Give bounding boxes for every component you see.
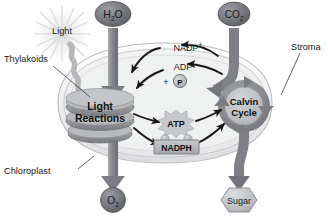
h2o-molecule: H2O — [95, 2, 131, 27]
plus-sign: + — [163, 77, 168, 87]
photosynthesis-diagram-page: Light Reactions Calvin Cycle — [0, 0, 328, 218]
h2o-tail: O — [115, 8, 123, 20]
phosphate-group: + P — [163, 74, 186, 87]
o2-molecule: O2 — [101, 188, 126, 213]
nadp-plus-label-group: NADP+ — [174, 41, 203, 53]
co2-base: CO — [225, 9, 240, 20]
calvin-cycle-label-line2: Cycle — [231, 107, 256, 118]
co2-molecule: CO2 — [218, 2, 250, 26]
sugar-molecule: Sugar — [221, 188, 257, 212]
light-label: Light — [52, 26, 72, 36]
o2-base: O — [107, 194, 115, 206]
co2-subscript: 2 — [240, 15, 244, 22]
diagram-canvas: Light Reactions Calvin Cycle — [0, 0, 328, 218]
phosphate-label: P — [177, 78, 183, 87]
atp-label: ATP — [167, 119, 184, 129]
thylakoids-label: Thylakoids — [4, 54, 48, 64]
stroma-label: Stroma — [291, 42, 322, 52]
chloroplast-label: Chloroplast — [4, 166, 51, 176]
nadp-base: NADP — [174, 43, 199, 53]
h2o-base: H — [103, 8, 111, 20]
light-reactions-label-line1: Light — [87, 100, 113, 112]
sugar-label: Sugar — [227, 196, 251, 206]
light-reactions-process[interactable]: Light Reactions — [66, 89, 134, 144]
calvin-cycle-label-line1: Calvin — [230, 96, 259, 107]
chloroplast-leader — [78, 156, 94, 169]
nadph-label: NADPH — [161, 143, 192, 153]
svg-text:NADP+: NADP+ — [174, 41, 203, 53]
o2-subscript: 2 — [115, 201, 119, 208]
stroma-leader — [281, 53, 300, 95]
adp-label: ADP — [174, 62, 193, 72]
light-reactions-label-line2: Reactions — [75, 112, 125, 124]
nadp-superscript: + — [199, 41, 203, 48]
